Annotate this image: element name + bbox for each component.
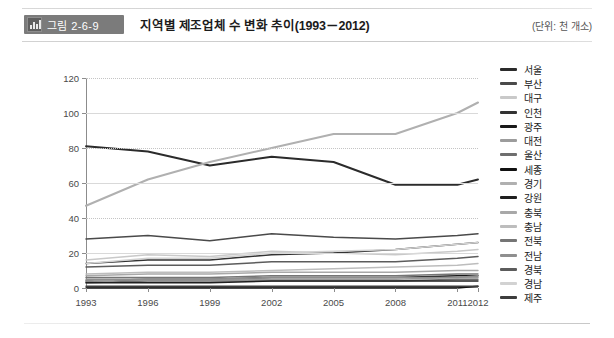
x-axis-tick-label: 2005 — [323, 297, 344, 308]
legend-item-부산[interactable]: 부산 — [500, 76, 600, 90]
x-axis-tick-mark — [272, 288, 273, 292]
x-axis-tick-label: 2011 — [447, 297, 467, 308]
legend-label: 광주 — [524, 119, 542, 134]
x-axis-tick-label: 1999 — [199, 297, 220, 308]
y-axis-tick-label: 80 — [68, 143, 79, 154]
legend-swatch — [500, 96, 517, 99]
legend-item-충북[interactable]: 충북 — [500, 205, 600, 219]
x-axis-tick-label: 1996 — [137, 297, 158, 308]
legend-item-세종[interactable]: 세종 — [500, 162, 600, 176]
series-line-서울 — [86, 146, 478, 185]
legend-label: 서울 — [524, 62, 542, 77]
legend-swatch — [500, 125, 517, 128]
header-rule-bottom — [22, 41, 592, 42]
figure-page: 그림 2-6-9 지역별 제조업체 수 변화 추이(1993－2012) (단위… — [0, 0, 614, 338]
legend-label: 세종 — [524, 162, 542, 177]
legend-item-울산[interactable]: 울산 — [500, 148, 600, 162]
legend-label: 충남 — [524, 219, 542, 234]
series-line-부산 — [86, 234, 478, 241]
y-axis-tick-label: 0 — [74, 283, 79, 294]
gridline — [86, 78, 478, 80]
y-axis-tick-mark — [82, 253, 86, 254]
gridline — [86, 183, 478, 185]
legend-label: 충북 — [524, 205, 542, 220]
legend-label: 경북 — [524, 262, 542, 277]
unit-label: (단위: 천 개소) — [532, 18, 592, 33]
legend-swatch — [500, 254, 517, 257]
gridline — [86, 218, 478, 220]
legend: 서울부산대구인천광주대전울산세종경기강원충북충남전북전남경북경남제주 — [500, 62, 600, 305]
legend-swatch — [500, 139, 517, 142]
legend-swatch — [500, 225, 517, 228]
legend-label: 강원 — [524, 190, 542, 205]
x-axis-tick-label: 1993 — [75, 297, 96, 308]
x-axis-tick-mark — [478, 288, 479, 292]
x-axis-tick-label: 2008 — [385, 297, 406, 308]
x-axis-tick-label: 2002 — [261, 297, 282, 308]
legend-swatch — [500, 68, 517, 71]
legend-item-전남[interactable]: 전남 — [500, 248, 600, 262]
y-axis-tick-mark — [82, 183, 86, 184]
legend-label: 울산 — [524, 147, 542, 162]
legend-item-전북[interactable]: 전북 — [500, 234, 600, 248]
legend-swatch — [500, 239, 517, 242]
gridline — [86, 148, 478, 150]
legend-label: 전남 — [524, 248, 542, 263]
legend-item-대구[interactable]: 대구 — [500, 91, 600, 105]
legend-swatch — [500, 111, 517, 114]
y-axis-tick-label: 40 — [68, 213, 79, 224]
legend-item-충남[interactable]: 충남 — [500, 219, 600, 233]
legend-label: 대전 — [524, 133, 542, 148]
legend-label: 경남 — [524, 276, 542, 291]
legend-item-인천[interactable]: 인천 — [500, 105, 600, 119]
figure-number-label: 그림 2-6-9 — [47, 17, 99, 33]
footer-rule — [24, 323, 590, 324]
y-axis-tick-label: 100 — [63, 108, 79, 119]
legend-item-대전[interactable]: 대전 — [500, 133, 600, 147]
x-axis-tick-mark — [148, 288, 149, 292]
legend-swatch — [500, 182, 517, 185]
y-axis-tick-mark — [82, 218, 86, 219]
header-rule-top — [22, 8, 592, 9]
legend-label: 인천 — [524, 105, 542, 120]
y-axis-tick-label: 120 — [63, 73, 79, 84]
legend-swatch — [500, 82, 517, 85]
x-axis-tick-mark — [334, 288, 335, 292]
legend-item-강원[interactable]: 강원 — [500, 191, 600, 205]
legend-item-서울[interactable]: 서울 — [500, 62, 600, 76]
legend-label: 제주 — [524, 290, 542, 305]
bar-chart-icon — [27, 17, 42, 32]
y-axis-tick-label: 60 — [68, 178, 79, 189]
legend-swatch — [500, 153, 517, 156]
gridline — [86, 113, 478, 115]
legend-swatch — [500, 168, 517, 171]
legend-label: 전북 — [524, 233, 542, 248]
y-axis-tick-mark — [82, 78, 86, 79]
x-axis-tick-mark — [395, 288, 396, 292]
x-axis-tick-mark — [86, 288, 87, 292]
legend-swatch — [500, 282, 517, 285]
figure-number-badge: 그림 2-6-9 — [24, 15, 124, 34]
legend-item-경북[interactable]: 경북 — [500, 262, 600, 276]
legend-swatch — [500, 268, 517, 271]
page-title: 지역별 제조업체 수 변화 추이(1993－2012) — [140, 15, 369, 34]
legend-item-제주[interactable]: 제주 — [500, 291, 600, 305]
legend-item-경남[interactable]: 경남 — [500, 276, 600, 290]
x-axis-tick-mark — [210, 288, 211, 292]
x-axis-tick-mark — [457, 288, 458, 292]
y-axis-tick-mark — [82, 148, 86, 149]
legend-label: 대구 — [524, 90, 542, 105]
series-line-경기 — [86, 103, 478, 206]
legend-swatch — [500, 196, 517, 199]
legend-swatch — [500, 296, 517, 299]
legend-label: 부산 — [524, 76, 542, 91]
legend-label: 경기 — [524, 176, 542, 191]
plot-region: 0204060801001201993199619992002200520082… — [86, 78, 478, 288]
y-axis-tick-mark — [82, 113, 86, 114]
legend-item-경기[interactable]: 경기 — [500, 176, 600, 190]
gridline — [86, 253, 478, 255]
x-axis-tick-label: 2012 — [467, 297, 488, 308]
legend-item-광주[interactable]: 광주 — [500, 119, 600, 133]
y-axis-tick-label: 20 — [68, 248, 79, 259]
legend-swatch — [500, 211, 517, 214]
